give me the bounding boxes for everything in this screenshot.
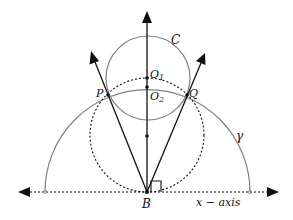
x-axis-right-arrow-icon: [267, 187, 279, 197]
x-axis-left-arrow-icon: [18, 187, 30, 197]
point-o1: [145, 76, 149, 80]
label-o1: O1: [150, 68, 164, 82]
label-p: P: [95, 87, 104, 100]
ray-bp-arrow-icon: [90, 51, 100, 65]
label-q: Q: [189, 87, 198, 100]
vertical-arrow-icon: [142, 11, 152, 23]
point-b: [145, 190, 149, 194]
ray-bp: [95, 62, 147, 192]
label-b: B: [141, 197, 151, 211]
label-c: C: [171, 33, 180, 47]
point-dashed-center: [145, 134, 149, 138]
ray-bq: [147, 63, 201, 192]
point-o2: [145, 85, 149, 89]
label-o2: O2: [150, 90, 164, 104]
label-x-axis: x − axis: [196, 196, 241, 209]
label-gamma: γ: [236, 129, 244, 143]
point-p: [106, 93, 110, 97]
geometry-diagram: C O1 O2 P Q γ B x − axis: [0, 0, 293, 220]
